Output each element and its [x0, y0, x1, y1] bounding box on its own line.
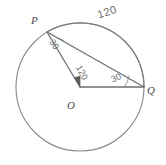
- geometry-canvas: [0, 0, 166, 165]
- center-label-o: O: [67, 100, 75, 111]
- geometry-diagram: P Q O 120 30 120 30: [0, 0, 166, 165]
- point-label-p: P: [31, 15, 38, 26]
- point-label-q: Q: [147, 85, 155, 96]
- chord-pq-line: [47, 32, 144, 87]
- arc-pq-highlight: [47, 23, 144, 87]
